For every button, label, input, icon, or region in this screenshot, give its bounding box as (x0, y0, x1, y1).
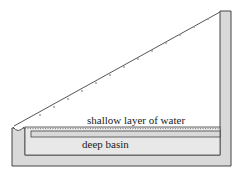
shallow-water-label: shallow layer of water (87, 114, 185, 126)
shallow-tray (31, 131, 220, 137)
deep-basin-label: deep basin (82, 138, 129, 150)
glass-cover (14, 12, 220, 126)
